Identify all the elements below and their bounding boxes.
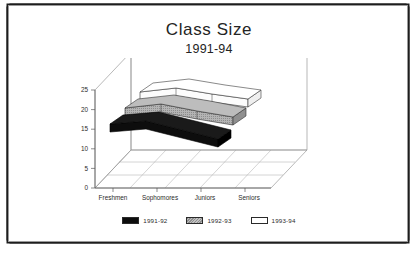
- legend-entry-1992-93: 1992-93: [186, 217, 231, 224]
- x-category-label-sophomores: Sophomores: [142, 194, 178, 202]
- legend-label-1991-92: 1991-92: [143, 217, 167, 224]
- legend-label-1992-93: 1992-93: [207, 217, 231, 224]
- legend-swatch-1992-93: [186, 217, 203, 224]
- y-tick-25: 25: [81, 86, 89, 93]
- legend-entry-1993-94: 1993-94: [251, 217, 296, 224]
- plot-3d-area-chart: 0 5 10 15 20 25: [9, 58, 409, 203]
- x-category-label-freshmen: Freshmen: [99, 194, 128, 201]
- y-tick-10: 10: [81, 145, 89, 152]
- y-tick-20: 20: [81, 106, 89, 113]
- x-category-label-seniors: Seniors: [238, 194, 260, 201]
- y-tick-15: 15: [81, 125, 89, 132]
- y-tick-0: 0: [84, 184, 88, 191]
- chart-subtitle: 1991-94: [9, 42, 409, 56]
- figure-frame: Class Size 1991-94: [8, 5, 408, 242]
- y-axis: 0 5 10 15 20 25: [81, 86, 95, 191]
- legend-swatch-1993-94: [251, 217, 268, 224]
- legend-entry-1991-92: 1991-92: [122, 217, 167, 224]
- chart-title: Class Size: [9, 20, 409, 40]
- legend-swatch-1991-92: [122, 217, 139, 224]
- chart-legend: 1991-92 1992-93 1993-94: [9, 217, 409, 224]
- legend-label-1993-94: 1993-94: [272, 217, 296, 224]
- chart-area: Class Size 1991-94: [9, 6, 409, 243]
- x-axis: Freshmen Sophomores Juniors Seniors: [95, 188, 271, 202]
- y-tick-5: 5: [84, 165, 88, 172]
- x-category-label-juniors: Juniors: [195, 194, 216, 201]
